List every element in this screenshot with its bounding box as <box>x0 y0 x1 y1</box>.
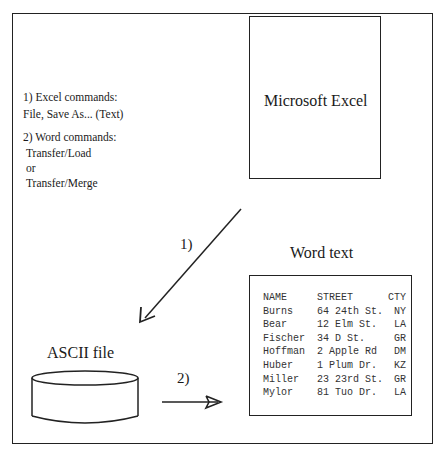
arrow-1-line <box>145 209 241 318</box>
word-text-title: Word text <box>290 244 353 262</box>
cell-name: Bear <box>263 318 317 332</box>
table-row: Miller 23 23rd St. GR <box>263 373 406 387</box>
cell-city: NY <box>383 305 406 319</box>
table-row: Bear 12 Elm St. LA <box>263 318 406 332</box>
cell-street: 34 D St. <box>317 332 383 346</box>
ascii-file-cylinder-icon <box>32 371 138 423</box>
table-row: Huber 1 Plum Dr. KZ <box>263 359 406 373</box>
cell-name: Miller <box>263 373 317 387</box>
cell-city: LA <box>383 386 406 400</box>
column-header: STREET <box>317 291 383 305</box>
arrow-1-label: 1) <box>180 236 193 253</box>
cell-city: GR <box>383 332 406 346</box>
cell-name: Hoffman <box>263 345 317 359</box>
cell-name: Fischer <box>263 332 317 346</box>
cell-city: DM <box>383 345 406 359</box>
cell-street: 1 Plum Dr. <box>317 359 383 373</box>
table-row: Fischer 34 D St. GR <box>263 332 406 346</box>
word-text-table: NAME STREET CTY Burns 64 24th St. NY Bea… <box>263 291 406 400</box>
cell-street: 2 Apple Rd <box>317 345 383 359</box>
cell-street: 81 Tuo Dr. <box>317 386 383 400</box>
cell-name: Huber <box>263 359 317 373</box>
table-header-row: NAME STREET CTY <box>263 291 406 305</box>
column-header: CTY <box>383 291 406 305</box>
arrow-2-label: 2) <box>177 370 190 387</box>
table-row: Burns 64 24th St. NY <box>263 305 406 319</box>
column-header: NAME <box>263 291 317 305</box>
table-row: Hoffman 2 Apple Rd DM <box>263 345 406 359</box>
cell-city: KZ <box>383 359 406 373</box>
cell-street: 12 Elm St. <box>317 318 383 332</box>
cell-city: LA <box>383 318 406 332</box>
cell-street: 64 24th St. <box>317 305 383 319</box>
cell-name: Burns <box>263 305 317 319</box>
ascii-file-label: ASCII file <box>47 344 114 362</box>
cell-street: 23 23rd St. <box>317 373 383 387</box>
table-row: Mylor 81 Tuo Dr. LA <box>263 386 406 400</box>
cell-name: Mylor <box>263 386 317 400</box>
cell-city: GR <box>383 373 406 387</box>
